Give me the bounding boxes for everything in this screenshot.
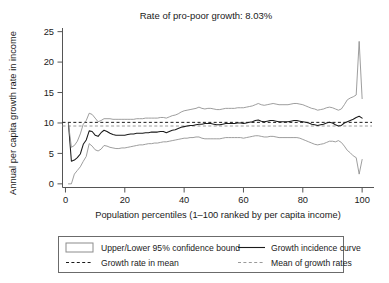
y-tick-label: 0	[49, 179, 54, 189]
legend-marker-confidence-bound	[66, 243, 93, 252]
legend-label-growth-rate-in-mean: Growth rate in mean	[101, 258, 179, 268]
y-tick-label: 10	[44, 118, 54, 128]
chart-figure: Rate of pro-poor growth: 8.03% 051015202…	[0, 0, 389, 283]
x-tick-label: 100	[354, 195, 370, 205]
chart-legend: Upper/Lower 95% confidence bound Growth …	[59, 237, 362, 273]
chart-title: Rate of pro-poor growth: 8.03%	[140, 10, 273, 21]
legend-label-mean-of-growth-rates: Mean of growth rates	[271, 258, 352, 268]
y-axis-label: Annual per capita growth rate in income	[8, 31, 18, 195]
legend-label-confidence-bound: Upper/Lower 95% confidence bound	[101, 243, 240, 253]
x-tick-label: 20	[120, 195, 130, 205]
y-tick-label: 5	[49, 149, 54, 159]
legend-label-growth-incidence-curve: Growth incidence curve	[271, 243, 361, 253]
y-tick-label: 20	[44, 57, 54, 67]
growth-incidence-chart: Rate of pro-poor growth: 8.03% 051015202…	[0, 0, 389, 283]
x-tick-label: 40	[179, 195, 189, 205]
x-tick-label: 60	[238, 195, 248, 205]
x-tick-label: 80	[298, 195, 308, 205]
x-tick-label: 0	[63, 195, 68, 205]
x-axis-label: Population percentiles (1–100 ranked by …	[95, 210, 340, 220]
y-tick-label: 25	[44, 27, 54, 37]
y-tick-label: 15	[44, 88, 54, 98]
